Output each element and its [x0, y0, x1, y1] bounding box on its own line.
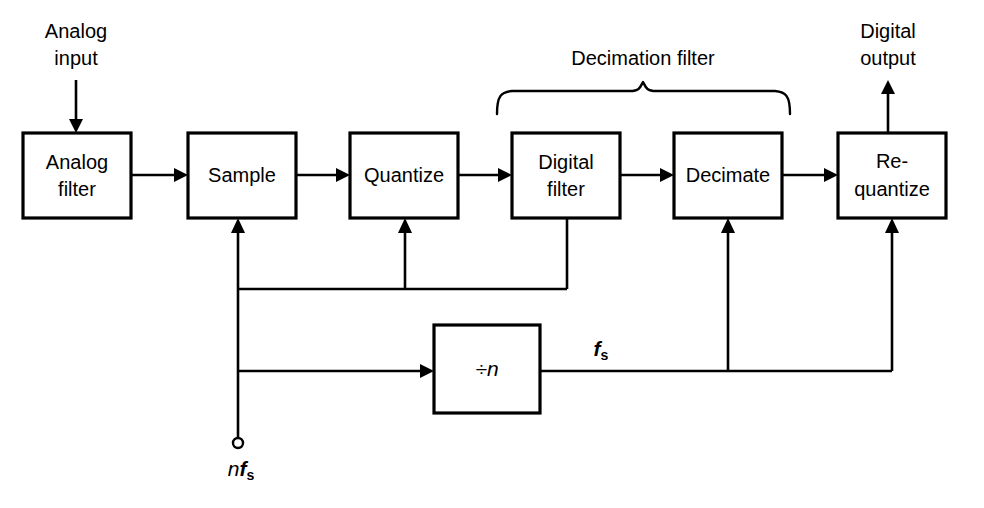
arrowhead-digitalfilter-in: [498, 168, 512, 182]
block-diagram: Analog filter Sample Quantize Digital fi…: [0, 0, 984, 508]
nfs-subscript: s: [246, 467, 254, 483]
arrowhead-requantize-in: [824, 168, 838, 182]
sample-label-line1: Sample: [208, 164, 276, 186]
analog-input-label-line1: Analog: [45, 20, 107, 42]
arrowhead-quantize-in: [336, 168, 350, 182]
divider-label: ÷n: [475, 357, 498, 380]
digital-filter-label-line1: Digital: [538, 151, 594, 173]
fs-subscript: s: [601, 347, 609, 363]
fs-signal-label: fs: [594, 337, 609, 363]
block-analog-filter[interactable]: Analog filter: [23, 133, 131, 218]
re-quantize-box[interactable]: [838, 133, 946, 218]
block-decimate[interactable]: Decimate: [674, 133, 782, 218]
digital-output-label-line2: output: [860, 47, 916, 69]
digital-output-label-line1: Digital: [860, 20, 916, 42]
arrowhead-sample-clock: [231, 218, 245, 233]
diagram-canvas: Analog filter Sample Quantize Digital fi…: [0, 0, 984, 508]
re-quantize-label-line1: Re-: [876, 150, 908, 172]
block-digital-filter[interactable]: Digital filter: [512, 133, 620, 218]
arrowhead-decimate-in: [660, 168, 674, 182]
digital-filter-label-line2: filter: [547, 178, 585, 200]
arrowhead-analog-input: [69, 119, 83, 133]
decimation-filter-brace: [497, 82, 790, 114]
analog-filter-label-line2: filter: [58, 178, 96, 200]
quantize-label-line1: Quantize: [364, 164, 444, 186]
arrowhead-decimate-clock: [721, 218, 735, 233]
block-quantize[interactable]: Quantize: [350, 133, 458, 218]
re-quantize-label-line2: quantize: [854, 178, 930, 200]
arrowhead-quantize-clock: [398, 218, 412, 233]
decimation-filter-label: Decimation filter: [571, 47, 715, 69]
arrowhead-sample-in: [174, 168, 188, 182]
nfs-signal-label: nfs: [228, 457, 255, 483]
arrowhead-requantize-clock: [885, 218, 899, 233]
nfs-prefix: n: [228, 457, 240, 480]
decimate-label-line1: Decimate: [686, 164, 770, 186]
block-re-quantize[interactable]: Re- quantize: [838, 133, 946, 218]
block-divider[interactable]: ÷n: [434, 325, 540, 413]
analog-filter-label-line1: Analog: [46, 151, 108, 173]
nfs-source-terminal: [233, 438, 243, 448]
arrowhead-divider-in: [420, 364, 434, 378]
analog-input-label-line2: input: [54, 47, 98, 69]
block-sample[interactable]: Sample: [188, 133, 296, 218]
analog-filter-box[interactable]: [23, 133, 131, 218]
digital-filter-box[interactable]: [512, 133, 620, 218]
arrowhead-digital-output: [881, 80, 895, 94]
